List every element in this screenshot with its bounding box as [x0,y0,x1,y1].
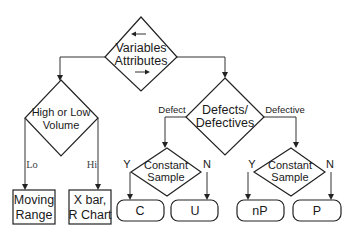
control-chart-selection-flowchart: Variables Attributes High or Low Volume … [0,0,355,235]
defect-branch-label: Defect [158,104,186,115]
sample-label: Sample [147,171,184,183]
arrowhead [22,184,28,190]
defectives-label: Defectives [196,116,254,130]
connector-defect [165,117,186,144]
volume-decision: High or Low Volume [25,80,98,156]
variables-attributes-decision: Variables Attributes [105,17,177,91]
sample-label: Sample [271,171,308,183]
arrowhead [222,72,228,78]
connector-defective [264,117,296,144]
arrowhead [127,194,133,200]
defective-branch-label: Defective [265,104,305,115]
arrowhead [204,194,210,200]
defects-defectives-decision: Defects/ Defectives [186,78,264,155]
arrowhead [328,194,334,200]
c-chart-terminal: C [117,200,164,221]
no-label: N [326,158,334,170]
connector-variables-to-volume [60,57,105,77]
p-label: P [313,204,321,218]
attributes-label: Attributes [115,54,168,68]
arrowhead [57,75,63,81]
xbar-r-chart-box: X bar, R Chart [68,190,112,224]
constant-label: Constant [268,159,312,171]
r-chart-label: R Chart [68,208,112,222]
arrowhead [162,142,168,148]
range-label: Range [16,208,53,222]
moving-range-box: Moving Range [13,190,55,224]
xbar-label: X bar, [74,193,107,207]
u-label: U [190,204,199,218]
c-label: C [135,204,144,218]
u-chart-terminal: U [171,200,218,221]
volume-label: Volume [43,119,80,131]
connector-attributes-to-defects [177,57,225,74]
variables-label: Variables [115,41,166,55]
moving-label: Moving [14,193,54,207]
arrowhead [95,184,101,190]
yes-label: Y [123,158,131,170]
defects-label: Defects/ [202,103,248,117]
arrowhead [245,194,251,200]
hi-branch-label: Hi [87,159,98,170]
lo-branch-label: Lo [26,159,38,170]
high-low-label: High or Low [32,106,91,118]
constant-sample-decision-left: Constant Sample [131,148,201,196]
np-label: nP [252,204,267,218]
arrowhead [293,142,299,148]
np-chart-terminal: nP [237,200,284,221]
yes-label: Y [248,158,256,170]
no-label: N [203,158,211,170]
p-chart-terminal: P [293,200,341,221]
constant-sample-decision-right: Constant Sample [254,148,325,196]
constant-label: Constant [144,159,188,171]
